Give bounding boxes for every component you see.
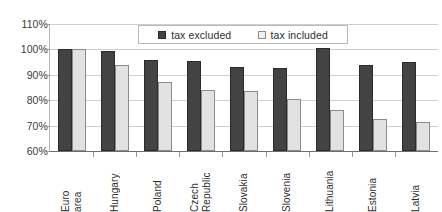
legend-label: tax included	[271, 29, 328, 41]
x-axis-line	[49, 151, 438, 152]
x-axis-category-label: Estonia	[359, 156, 387, 212]
x-axis-category-label-line: Hungary	[109, 156, 121, 212]
x-axis-category-label-line: Latvia	[410, 156, 422, 212]
bar-tax-excluded	[58, 49, 72, 151]
y-axis-tick-mark	[45, 24, 50, 25]
y-axis-tick-mark	[45, 75, 50, 76]
x-axis-category-label-line: Poland	[152, 156, 164, 212]
x-axis-tick-mark	[395, 152, 396, 157]
x-axis-category-label-line: Estonia	[367, 156, 379, 212]
x-axis-category-label-line: Lithuania	[324, 156, 336, 212]
chart-legend: tax excludedtax included	[138, 25, 348, 44]
bar-tax-excluded	[144, 60, 158, 151]
x-axis-tick-mark	[352, 152, 353, 157]
x-axis-tick-mark	[266, 152, 267, 157]
x-axis-category-label: Hungary	[101, 156, 129, 212]
bar-group	[101, 24, 129, 151]
bar-tax-included	[373, 119, 387, 151]
y-axis-tick-label: 60%	[4, 146, 48, 156]
bar-tax-included	[115, 65, 129, 151]
y-axis-tick-mark	[45, 126, 50, 127]
x-axis-tick-mark	[309, 152, 310, 157]
bar-tax-excluded	[402, 62, 416, 151]
x-axis-category-label-line: area	[72, 156, 84, 212]
x-axis-category-label-line: Slovakia	[238, 156, 250, 212]
legend-swatch-tax-included	[258, 31, 266, 39]
bar-group	[402, 24, 430, 151]
x-axis-tick-mark	[93, 152, 94, 157]
legend-entry: tax included	[258, 29, 328, 41]
y-axis-line	[49, 24, 50, 152]
y-axis-tick-labels: 110%100%90%80%70%60%	[0, 0, 48, 212]
x-axis-category-label: Lithuania	[316, 156, 344, 212]
legend-label: tax excluded	[171, 29, 231, 41]
bar-tax-excluded	[273, 68, 287, 151]
bar-tax-included	[287, 99, 301, 151]
x-axis-category-label-line: Slovenia	[281, 156, 293, 212]
x-axis-category-label-line: Republic	[201, 156, 213, 212]
bar-tax-excluded	[230, 67, 244, 151]
y-axis-tick-mark	[45, 49, 50, 50]
y-axis-tick-label: 70%	[4, 121, 48, 131]
y-axis-tick-label: 100%	[4, 44, 48, 54]
bar-tax-included	[201, 90, 215, 151]
x-axis-category-label: Poland	[144, 156, 172, 212]
bar-tax-excluded	[187, 61, 201, 151]
x-axis-tick-mark	[136, 152, 137, 157]
legend-entry: tax excluded	[158, 29, 231, 41]
y-axis-tick-mark	[45, 151, 50, 152]
x-axis-category-label: Slovenia	[273, 156, 301, 212]
x-axis-category-label: CzechRepublic	[187, 156, 215, 212]
bar-tax-included	[330, 110, 344, 151]
y-axis-tick-label: 90%	[4, 70, 48, 80]
x-axis-category-label: Euroarea	[58, 156, 86, 212]
bar-tax-included	[72, 49, 86, 151]
x-axis-category-label: Slovakia	[230, 156, 258, 212]
bar-tax-excluded	[316, 48, 330, 151]
legend-swatch-tax-excluded	[158, 31, 166, 39]
bar-group	[359, 24, 387, 151]
bar-group	[58, 24, 86, 151]
x-axis-tick-mark	[179, 152, 180, 157]
x-axis-category-label-line: Euro	[60, 156, 72, 212]
bar-tax-included	[416, 122, 430, 151]
bar-tax-excluded	[101, 51, 115, 151]
x-axis-category-label-line: Czech	[189, 156, 201, 212]
x-axis-category-label: Latvia	[402, 156, 430, 212]
bar-tax-included	[244, 91, 258, 151]
bar-tax-excluded	[359, 65, 373, 151]
bar-chart: 110%100%90%80%70%60% tax excludedtax inc…	[0, 0, 442, 212]
x-axis-category-labels: EuroareaHungaryPolandCzechRepublicSlovak…	[50, 156, 438, 212]
bar-tax-included	[158, 82, 172, 151]
x-axis-tick-mark	[222, 152, 223, 157]
y-axis-tick-label: 110%	[4, 19, 48, 29]
y-axis-tick-mark	[45, 100, 50, 101]
y-axis-tick-label: 80%	[4, 95, 48, 105]
